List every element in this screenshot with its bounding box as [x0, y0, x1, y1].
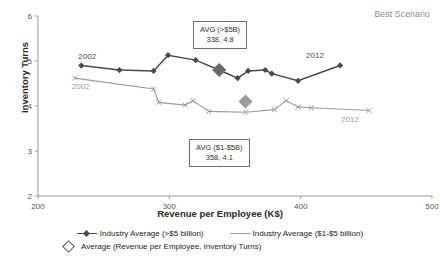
legend-row-average: Average (Revenue per Employee, Inventory… — [0, 240, 440, 253]
legend-item-high[interactable]: Industry Average (>$5 billion) — [77, 229, 204, 238]
annotation-avg-high-title: AVG (>$5B) — [200, 25, 240, 34]
legend-line-icon — [230, 229, 250, 238]
data-point-marker — [192, 57, 198, 63]
annotation-avg-low-value: 358, 4.1 — [196, 153, 243, 163]
average-diamond-marker-high — [212, 63, 226, 77]
x-tick-label: 500 — [425, 202, 439, 211]
data-point-marker — [262, 67, 268, 73]
series-end-year-label: 2012 — [306, 51, 324, 60]
legend-item-low[interactable]: Industry Average ($1-$5 billion) — [230, 229, 364, 238]
x-tick-label: 400 — [294, 202, 308, 211]
legend-label-average: Average (Revenue per Employee, Inventory… — [81, 243, 261, 251]
legend-label-low: Industry Average ($1-$5 billion) — [253, 230, 364, 238]
data-point-marker — [78, 62, 84, 68]
y-tick-label: 2 — [28, 192, 33, 201]
y-tick-label: 4 — [28, 102, 33, 111]
chart-legend: Industry Average (>$5 billion) Industry … — [0, 227, 440, 253]
x-tick-label: 200 — [31, 202, 45, 211]
data-point-marker — [116, 67, 122, 73]
average-diamond-marker-low — [238, 94, 252, 108]
annotation-avg-low: AVG ($1-$5B) 358, 4.1 — [189, 139, 250, 167]
series-end-year-label: 2012 — [341, 115, 359, 124]
series-line-low — [75, 78, 369, 112]
series-start-year-label: 2002 — [78, 52, 96, 61]
legend-line-marker-icon — [77, 229, 97, 238]
y-tick-label: 6 — [28, 12, 33, 21]
y-tick-label: 5 — [28, 57, 33, 66]
annotation-avg-high-value: 338, 4.8 — [200, 35, 240, 45]
series-start-year-label: 2002 — [72, 82, 90, 91]
legend-label-high: Industry Average (>$5 billion) — [100, 230, 204, 238]
annotation-avg-high: AVG (>$5B) 338, 4.8 — [193, 21, 247, 49]
data-point-marker — [295, 78, 301, 84]
chart-container: Best Scenario Inventory Turns Revenue pe… — [0, 0, 440, 259]
legend-row-series: Industry Average (>$5 billion) Industry … — [0, 227, 440, 240]
open-diamond-icon — [62, 240, 75, 253]
annotation-avg-low-title: AVG ($1-$5B) — [196, 143, 243, 152]
data-point-marker — [190, 98, 195, 103]
y-tick-label: 3 — [28, 147, 33, 156]
x-tick-label: 300 — [163, 202, 177, 211]
data-point-marker — [269, 70, 275, 76]
data-point-marker — [284, 98, 289, 103]
legend-item-average[interactable]: Average (Revenue per Employee, Inventory… — [64, 242, 261, 251]
data-point-marker — [337, 62, 343, 68]
